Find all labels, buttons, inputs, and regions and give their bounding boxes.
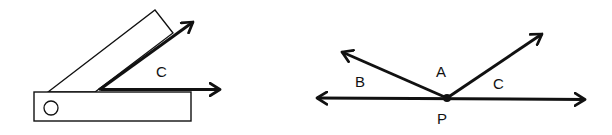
angle-diagram: C B A C P — [0, 0, 612, 135]
straight-line-double-arrow — [317, 98, 585, 100]
point-label-p: P — [437, 110, 447, 127]
angle-label-c-right: C — [493, 75, 504, 92]
point-p-dot — [443, 94, 451, 102]
angle-label-a: A — [436, 63, 446, 80]
line-angles-figure: B A C P — [317, 34, 585, 127]
angle-label-c-left: C — [156, 63, 167, 80]
angle-label-b: B — [355, 73, 365, 90]
protractor-figure: C — [34, 10, 220, 121]
